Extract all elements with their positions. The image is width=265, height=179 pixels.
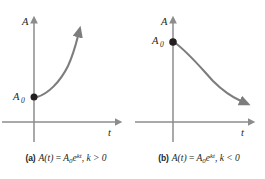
caption-a-comma: , bbox=[82, 153, 84, 163]
caption-a-expression: A(t) = A0ekt, k > 0 bbox=[36, 153, 107, 163]
panel-exponential-growth: A t A 0 (a)A(t) = A0ekt, k > 0 bbox=[0, 0, 132, 179]
caption-a-equals: = bbox=[56, 153, 61, 163]
caption-a-arg: (t) bbox=[44, 153, 53, 163]
caption-b-arg: (t) bbox=[178, 153, 187, 163]
caption-a-condition: k > 0 bbox=[86, 153, 106, 163]
growth-plot-svg: A t A 0 bbox=[0, 0, 132, 150]
panel-exponential-decay: A t A 0 (b)A(t) = A0ekt, k < 0 bbox=[133, 0, 265, 179]
decay-curve bbox=[174, 42, 241, 101]
y-axis-label: A bbox=[21, 16, 29, 27]
caption-b-expression: A(t) = A0ekt, k < 0 bbox=[169, 153, 240, 163]
caption-a: (a)A(t) = A0ekt, k > 0 bbox=[0, 152, 132, 165]
caption-a-tag: (a) bbox=[25, 153, 35, 163]
figure-root: A t A 0 (a)A(t) = A0ekt, k > 0 bbox=[0, 0, 265, 179]
initial-value-label-subscript: 0 bbox=[160, 40, 164, 49]
x-axis-label: t bbox=[108, 127, 112, 138]
initial-value-dot bbox=[31, 94, 38, 101]
caption-b-equals: = bbox=[189, 153, 194, 163]
caption-b: (b)A(t) = A0ekt, k < 0 bbox=[133, 152, 265, 165]
initial-value-label: A bbox=[151, 35, 159, 46]
x-axis-label: t bbox=[241, 127, 245, 138]
decay-plot-svg: A t A 0 bbox=[133, 0, 265, 150]
initial-value-label: A bbox=[12, 91, 20, 102]
growth-curve bbox=[37, 36, 78, 97]
caption-b-comma: , bbox=[215, 153, 217, 163]
initial-value-dot bbox=[169, 38, 177, 46]
caption-b-tag: (b) bbox=[158, 153, 169, 163]
y-axis-label: A bbox=[160, 16, 168, 27]
caption-b-condition: k < 0 bbox=[220, 153, 240, 163]
initial-value-label-subscript: 0 bbox=[21, 96, 25, 105]
